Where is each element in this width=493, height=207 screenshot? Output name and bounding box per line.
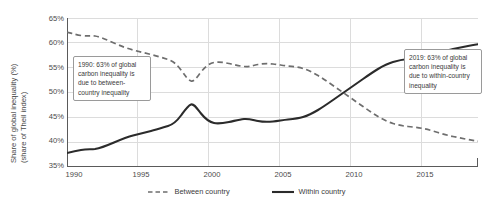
x-tick-2000: 2000	[204, 171, 221, 179]
annotation-2019: 2019: 63% of global carbon inequality is…	[404, 49, 482, 94]
x-tick-1990: 1990	[66, 171, 83, 179]
y-tick-55: 55%	[30, 64, 64, 72]
y-tick-35: 35%	[30, 162, 64, 170]
legend-item-between-country[interactable]: Between country	[148, 188, 230, 196]
legend-item-within-country[interactable]: Within country	[272, 188, 346, 196]
y-tick-45: 45%	[30, 113, 64, 121]
x-tick-2005: 2005	[275, 171, 292, 179]
legend-label-between-country: Between country	[175, 188, 230, 196]
legend-dashed-line-icon	[148, 188, 170, 196]
annotation-1990: 1990: 63% of global carbon inequality is…	[73, 56, 151, 101]
y-tick-60: 60%	[30, 39, 64, 47]
legend-label-within-country: Within country	[299, 188, 346, 196]
y-tick-65: 65%	[30, 15, 64, 23]
y-axis-title-line-1: Share of global inequality (%)	[9, 64, 19, 163]
x-tick-1995: 1995	[133, 171, 150, 179]
x-axis-tick-labels: 1990 1995 2000 2005 2010 2015	[0, 171, 493, 183]
line-chart: Share of global inequality (%) (share of…	[0, 0, 493, 207]
y-tick-50: 50%	[30, 88, 64, 96]
y-tick-40: 40%	[30, 137, 64, 145]
x-tick-2015: 2015	[417, 171, 434, 179]
y-axis-title: Share of global inequality (%) (share of…	[0, 18, 26, 168]
legend-solid-line-icon	[272, 188, 294, 196]
chart-legend: Between country Within country	[0, 185, 493, 199]
x-tick-2010: 2010	[346, 171, 363, 179]
